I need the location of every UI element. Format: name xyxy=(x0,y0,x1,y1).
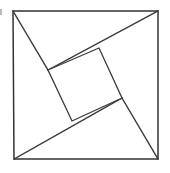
geometric-figure-canvas xyxy=(0,0,170,173)
figure-svg xyxy=(0,0,170,173)
scan-speck-artifact xyxy=(0,9,2,15)
